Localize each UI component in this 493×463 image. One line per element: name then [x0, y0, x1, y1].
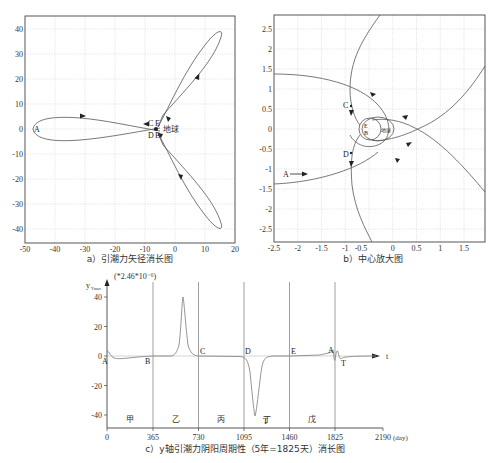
svg-text:20: 20 — [94, 323, 102, 332]
svg-text:-0.5: -0.5 — [259, 145, 272, 154]
y-axis-arrow — [105, 279, 110, 286]
panel-c-point-A2: A — [328, 346, 334, 355]
svg-text:1.5: 1.5 — [262, 65, 272, 74]
panel-c-yticks: 40 20 0 -20 -40 — [91, 293, 102, 420]
svg-text:2.5: 2.5 — [262, 25, 272, 34]
panel-c-ylabel: y — [86, 281, 90, 290]
svg-text:40: 40 — [15, 25, 23, 34]
svg-text:1825: 1825 — [327, 433, 343, 442]
svg-text:-10: -10 — [12, 150, 23, 159]
panel-a-label-A: A — [34, 125, 40, 134]
svg-text:-40: -40 — [12, 225, 23, 234]
svg-text:0: 0 — [173, 245, 177, 254]
panel-b-caption: b）中心放大图 — [343, 253, 403, 264]
panel-a-yticks: 40 30 20 10 0 -10 -20 -30 -40 — [12, 25, 23, 234]
panel-b-label-B: B — [364, 130, 368, 136]
svg-text:1.5: 1.5 — [459, 244, 469, 253]
panel-a-label-C: C — [148, 119, 153, 128]
panel-a-xticks: -50 -40 -30 -20 -10 0 10 20 — [20, 245, 239, 254]
svg-text:-20: -20 — [110, 245, 121, 254]
panel-a-label-D: D — [148, 131, 154, 140]
panel-c-point-A: A — [102, 357, 108, 366]
svg-text:-20: -20 — [12, 175, 23, 184]
svg-text:-2.5: -2.5 — [259, 225, 272, 234]
panel-a-label-E: E — [155, 119, 160, 128]
panel-a-frame — [25, 16, 235, 243]
panel-c-point-T2: T — [341, 359, 346, 368]
svg-text:0.5: 0.5 — [262, 105, 272, 114]
panel-b-grid — [274, 15, 485, 242]
panel-b-label-E: E — [364, 123, 368, 129]
svg-text:-2: -2 — [265, 205, 272, 214]
panel-a: A C E D B 地球 -50 -40 -30 -20 -10 0 10 20… — [12, 16, 239, 264]
panel-c-point-E: E — [291, 347, 296, 356]
panel-b: A C D E B 地球 -2.5 -2 -1.5 -1 -0.5 0 0.5 … — [259, 15, 485, 264]
svg-text:10: 10 — [201, 245, 209, 254]
svg-text:-2.5: -2.5 — [268, 244, 281, 253]
panel-a-caption: a）引潮力矢径消长图 — [87, 253, 174, 264]
svg-text:-20: -20 — [91, 382, 102, 391]
svg-text:20: 20 — [15, 75, 23, 84]
panel-a-curve — [33, 32, 222, 229]
svg-text:1: 1 — [438, 244, 442, 253]
panel-c-t-label: t — [386, 352, 389, 361]
svg-text:-1: -1 — [342, 244, 349, 253]
svg-text:-30: -30 — [12, 200, 23, 209]
panel-b-label-earth: 地球 — [381, 127, 391, 133]
svg-text:0: 0 — [19, 125, 23, 134]
svg-text:-2: -2 — [294, 244, 301, 253]
panel-a-label-earth: 地球 — [163, 124, 179, 134]
panel-c-point-C: C — [200, 347, 205, 356]
svg-text:1: 1 — [268, 85, 272, 94]
svg-text:戊: 戊 — [308, 414, 316, 424]
panel-c-point-D: D — [245, 347, 251, 356]
svg-text:2: 2 — [268, 45, 272, 54]
svg-text:-1: -1 — [265, 165, 272, 174]
svg-text:-0.5: -0.5 — [355, 244, 368, 253]
svg-text:-10: -10 — [140, 245, 151, 254]
svg-text:10: 10 — [15, 100, 23, 109]
svg-text:0.5: 0.5 — [412, 244, 422, 253]
panel-c-scale: (*2.46*10⁻⁶) — [114, 272, 156, 281]
panel-c-xunit: (day) — [393, 434, 408, 442]
panel-b-label-C: C — [343, 101, 348, 110]
panel-c-phases: 甲 乙 丙 丁 戊 — [126, 414, 316, 424]
svg-text:-40: -40 — [91, 411, 102, 420]
svg-text:1460: 1460 — [282, 433, 298, 442]
panel-c-point-B: B — [145, 357, 150, 366]
panel-c-xticks: 0 365 730 1095 1460 1825 2190 — [105, 433, 391, 442]
svg-text:0: 0 — [268, 125, 272, 134]
svg-text:0: 0 — [105, 433, 109, 442]
panel-c: y Ymax (*2.46*10⁻⁶) 40 20 0 -20 -40 0 36… — [86, 272, 408, 454]
panel-b-xticks: -2.5 -2 -1.5 -1 -0.5 0 0.5 1 1.5 — [268, 244, 469, 253]
svg-text:730: 730 — [193, 433, 205, 442]
svg-text:-1.5: -1.5 — [259, 185, 272, 194]
panel-a-grid — [25, 16, 235, 243]
svg-text:乙: 乙 — [172, 415, 180, 424]
svg-text:甲: 甲 — [126, 415, 134, 424]
panel-c-ylabel-sub: Ymax — [91, 286, 101, 291]
svg-text:-40: -40 — [50, 245, 61, 254]
panel-a-label-B: B — [155, 131, 160, 140]
panel-b-label-D: D — [343, 150, 349, 159]
panel-b-label-A: A — [283, 170, 289, 179]
panel-b-yticks: 2.5 2 1.5 1 0.5 0 -0.5 -1 -1.5 -2 -2.5 — [259, 25, 272, 234]
svg-text:丁: 丁 — [263, 415, 271, 424]
svg-text:丙: 丙 — [217, 415, 225, 424]
svg-text:-30: -30 — [80, 245, 91, 254]
svg-text:365: 365 — [147, 433, 159, 442]
panel-c-caption: c）y轴引潮力阴阳周期性（5年=1825天）消长图 — [145, 443, 344, 454]
svg-text:0: 0 — [391, 244, 395, 253]
svg-text:2190: 2190 — [375, 433, 391, 442]
svg-text:-1.5: -1.5 — [315, 244, 328, 253]
svg-text:-50: -50 — [20, 245, 31, 254]
svg-text:1095: 1095 — [236, 433, 252, 442]
svg-text:30: 30 — [15, 50, 23, 59]
svg-text:40: 40 — [94, 293, 102, 302]
svg-text:20: 20 — [231, 245, 239, 254]
